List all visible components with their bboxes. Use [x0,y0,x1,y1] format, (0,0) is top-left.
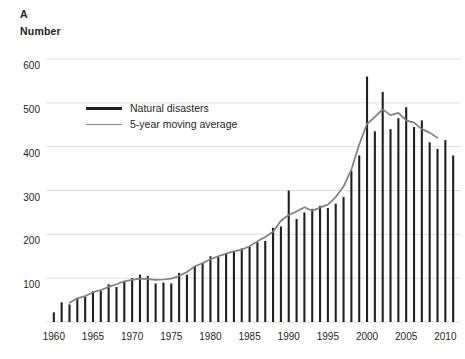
legend-item-moving-average: 5-year moving average [86,116,237,132]
x-tick-label: 1980 [199,331,222,342]
x-axis-tick-labels: 1960196519701975198019851990199520002005… [43,331,457,342]
y-tick-label: 100 [23,279,40,290]
x-tick-label: 2010 [434,331,457,342]
x-tick-label: 2000 [356,331,379,342]
y-tick-label: 200 [23,235,40,246]
x-tick-label: 1975 [160,331,183,342]
y-tick-label: 600 [23,60,40,71]
x-tick-label: 2005 [395,331,418,342]
legend-label-natural-disasters: Natural disasters [130,102,209,114]
x-tick-label: 1965 [82,331,105,342]
y-tick-label: 400 [23,148,40,159]
legend-label-moving-average: 5-year moving average [130,118,237,130]
x-tick-label: 1970 [121,331,144,342]
y-tick-label: 500 [23,104,40,115]
y-axis-tick-labels: 100200300400500600 [23,60,40,290]
x-tick-label: 1990 [278,331,301,342]
x-tick-label: 1995 [317,331,340,342]
legend-item-natural-disasters: Natural disasters [86,100,237,116]
x-tick-label: 1985 [238,331,261,342]
legend-swatch-moving-average-icon [86,124,122,125]
y-tick-label: 300 [23,192,40,203]
legend-swatch-natural-disasters-icon [86,107,122,110]
x-tick-label: 1960 [43,331,66,342]
chart-legend: Natural disasters 5-year moving average [86,100,237,132]
disasters-chart: 100200300400500600 196019651970197519801… [0,0,465,359]
chart-plot-area: 100200300400500600 196019651970197519801… [0,0,465,359]
